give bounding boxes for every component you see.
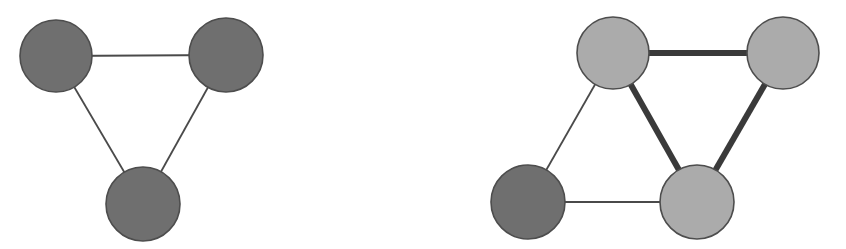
- graph-figure: [0, 0, 846, 249]
- graph-node[interactable]: [491, 165, 565, 239]
- node-circle[interactable]: [106, 167, 180, 241]
- graph-node[interactable]: [577, 17, 649, 89]
- graph-node[interactable]: [660, 165, 734, 239]
- graph-node[interactable]: [747, 17, 819, 89]
- node-circle[interactable]: [577, 17, 649, 89]
- node-circle[interactable]: [491, 165, 565, 239]
- node-circle[interactable]: [20, 20, 92, 92]
- node-circle[interactable]: [189, 18, 263, 92]
- graph-node[interactable]: [189, 18, 263, 92]
- node-circle[interactable]: [660, 165, 734, 239]
- graph-node[interactable]: [20, 20, 92, 92]
- node-circle[interactable]: [747, 17, 819, 89]
- graph-canvas: [0, 0, 846, 249]
- graph-node[interactable]: [106, 167, 180, 241]
